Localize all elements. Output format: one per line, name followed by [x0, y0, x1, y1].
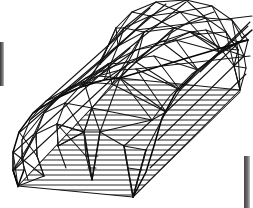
- cw-4: [176, 40, 198, 70]
- post-3: [36, 134, 37, 156]
- crest-diag-6: [100, 28, 124, 64]
- figure-root: [0, 0, 253, 208]
- re-5: [244, 56, 246, 68]
- bottom-right-scan-bar: [244, 156, 250, 208]
- truss-vault-drawing: [0, 0, 253, 208]
- left-edge-scan-bar: [0, 42, 4, 86]
- upper-surface-mesh: [81, 28, 220, 87]
- um-4: [190, 32, 220, 48]
- ls-d8: [46, 87, 81, 101]
- crest-diag-4: [180, 6, 212, 12]
- post-4: [57, 124, 58, 146]
- floor-plane: [0, 78, 253, 197]
- re-3: [244, 40, 248, 56]
- crest-brace-3: [156, 2, 180, 12]
- crest-diag-8: [144, 12, 180, 32]
- cw-14: [198, 52, 220, 70]
- um-12: [90, 46, 108, 80]
- ls-v2: [65, 103, 92, 108]
- leg-right-back-tie: [234, 66, 246, 68]
- crest-diag-9: [174, 18, 206, 28]
